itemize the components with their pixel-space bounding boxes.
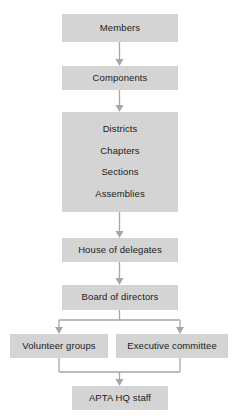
node-component-types-line-districts: Districts [62,124,178,135]
node-volunteer-groups-label: Volunteer groups [22,341,95,352]
node-components[interactable]: Components [62,66,178,90]
edge-component-types-to-house-of-delegates [116,212,124,238]
node-executive-committee-label: Executive committee [127,341,217,352]
node-board-of-directors-label: Board of directors [82,292,159,303]
node-volunteer-groups[interactable]: Volunteer groups [10,334,108,358]
node-apta-hq-staff-label: APTA HQ staff [89,393,151,404]
node-component-types-line-assemblies: Assemblies [62,189,178,200]
node-house-of-delegates[interactable]: House of delegates [62,238,178,262]
edge-board-of-directors-split [55,310,184,334]
node-component-types-line-chapters: Chapters [62,146,178,157]
node-members[interactable]: Members [62,14,178,42]
node-component-types[interactable]: Districts Chapters Sections Assemblies [62,112,178,212]
flowchart-diagram: Members Components Districts Chapters Se… [0,0,239,419]
node-members-label: Members [100,23,140,34]
node-components-label: Components [93,73,148,84]
node-executive-committee[interactable]: Executive committee [116,334,228,358]
node-component-types-line-sections: Sections [62,167,178,178]
node-apta-hq-staff[interactable]: APTA HQ staff [72,386,168,410]
node-board-of-directors[interactable]: Board of directors [62,285,178,310]
edge-house-of-delegates-to-board-of-directors [116,262,124,285]
edge-components-to-component-types [116,90,124,112]
edge-members-to-components [116,42,124,66]
node-house-of-delegates-label: House of delegates [78,245,162,256]
edge-merge-to-apta-hq-staff [59,358,180,386]
